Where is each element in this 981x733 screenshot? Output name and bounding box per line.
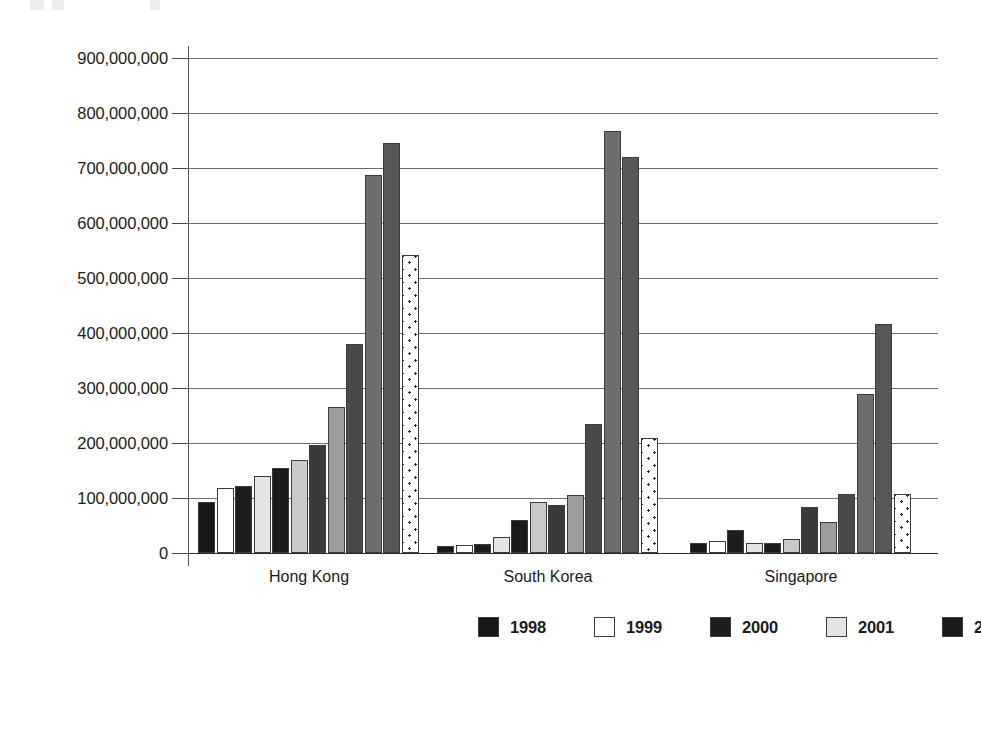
bar-singapore-2002 [764, 543, 781, 553]
bar-singapore-2001 [746, 543, 763, 553]
legend-label: 2000 [742, 618, 778, 637]
legend-swatch-icon-2001 [826, 617, 847, 637]
bar-singapore-2000 [727, 530, 744, 553]
bar-hong-kong-2002 [272, 468, 289, 553]
chart-legend: 1998199920002001200220032004200520062007… [478, 610, 981, 644]
bar-singapore-2005 [820, 522, 837, 553]
bar-south-korea-2005 [567, 495, 584, 553]
bar-hong-kong-2003 [291, 460, 308, 554]
bar-hong-kong-2000 [235, 486, 252, 553]
y-tick-label: 400,000,000 [77, 324, 168, 343]
gridline-0 [188, 553, 938, 554]
bar-hong-kong-2007 [365, 175, 382, 553]
legend-swatch-icon-2000 [710, 617, 731, 637]
bar-group-south-korea [437, 58, 659, 553]
x-category-label-singapore: Singapore [765, 568, 838, 586]
y-tick-label: 600,000,000 [77, 214, 168, 233]
y-tick-label: 900,000,000 [77, 49, 168, 68]
y-tick-mark [172, 443, 188, 444]
bar-singapore-2006 [838, 494, 855, 553]
bar-hong-kong-2006 [346, 344, 363, 553]
bar-hong-kong-2005 [328, 407, 345, 553]
y-tick-label: 700,000,000 [77, 159, 168, 178]
bar-south-korea-1999 [456, 545, 473, 553]
legend-item-2000: 2000 [710, 610, 826, 644]
bar-singapore-2004 [801, 507, 818, 553]
legend-item-1999: 1999 [594, 610, 710, 644]
bar-south-korea-2002 [511, 520, 528, 553]
y-axis-tick-labels: 0100,000,000200,000,000300,000,000400,00… [0, 58, 168, 553]
y-tick-mark [172, 113, 188, 114]
bar-singapore-1998 [690, 543, 707, 553]
bar-south-korea-1998 [437, 546, 454, 553]
y-tick-mark [172, 333, 188, 334]
bar-group-hong-kong [198, 58, 420, 553]
plot-area [188, 58, 938, 553]
bar-south-korea-2006 [585, 424, 602, 553]
legend-item-1998: 1998 [478, 610, 594, 644]
legend-label: 1999 [626, 618, 662, 637]
bar-singapore-2007 [857, 394, 874, 554]
bar-south-korea-2001 [493, 537, 510, 554]
bar-south-korea-2003 [530, 502, 547, 553]
legend-item-2001: 2001 [826, 610, 942, 644]
bar-singapore-2003 [783, 539, 800, 553]
y-tick-label: 800,000,000 [77, 104, 168, 123]
legend-label: 1998 [510, 618, 546, 637]
bar-south-korea-2008 [622, 157, 639, 553]
bar-group-singapore [690, 58, 912, 553]
y-tick-label: 500,000,000 [77, 269, 168, 288]
legend-label: 2002 [974, 618, 981, 637]
y-tick-label: 300,000,000 [77, 379, 168, 398]
bar-hong-kong-2001 [254, 476, 271, 553]
y-tick-label: 100,000,000 [77, 489, 168, 508]
y-tick-label: 200,000,000 [77, 434, 168, 453]
bar-south-korea-2000 [474, 544, 491, 553]
legend-swatch-icon-1998 [478, 617, 499, 637]
bar-south-korea-2004 [548, 505, 565, 553]
y-tick-mark [172, 553, 188, 554]
bar-chart: 0100,000,000200,000,000300,000,000400,00… [0, 0, 981, 733]
bar-south-korea-2009 [641, 438, 658, 554]
y-tick-label: 0 [159, 544, 168, 563]
bar-singapore-2008 [875, 324, 892, 553]
bar-south-korea-2007 [604, 131, 621, 553]
bar-hong-kong-1999 [217, 488, 234, 553]
y-tick-mark [172, 168, 188, 169]
bar-hong-kong-2008 [383, 143, 400, 553]
bar-hong-kong-1998 [198, 502, 215, 553]
y-tick-mark [172, 388, 188, 389]
legend-item-2002: 2002 [942, 610, 981, 644]
bar-singapore-2009 [894, 494, 911, 553]
y-tick-mark [172, 58, 188, 59]
bar-singapore-1999 [709, 541, 726, 553]
bar-hong-kong-2004 [309, 445, 326, 553]
y-tick-mark [172, 278, 188, 279]
bar-hong-kong-2009 [402, 255, 419, 553]
x-category-label-south-korea: South Korea [504, 568, 593, 586]
legend-label: 2001 [858, 618, 894, 637]
y-tick-mark [172, 498, 188, 499]
legend-swatch-icon-2002 [942, 617, 963, 637]
x-category-label-hong-kong: Hong Kong [269, 568, 349, 586]
y-tick-mark [172, 223, 188, 224]
legend-swatch-icon-1999 [594, 617, 615, 637]
